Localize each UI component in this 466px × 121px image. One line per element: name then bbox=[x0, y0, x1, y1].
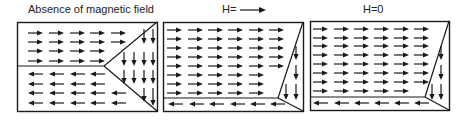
magnetization-right-arrow-icon bbox=[28, 48, 43, 53]
magnetization-left-arrow-icon bbox=[334, 100, 349, 105]
magnetization-right-arrow-icon bbox=[208, 45, 223, 50]
magnetization-right-arrow-icon bbox=[228, 45, 243, 50]
magnetization-right-arrow-icon bbox=[374, 79, 389, 84]
magnetization-right-arrow-icon bbox=[249, 36, 264, 41]
magnetization-right-arrow-icon bbox=[249, 90, 264, 95]
magnetization-right-arrow-icon bbox=[228, 63, 243, 68]
magnetization-right-arrow-icon bbox=[188, 81, 203, 86]
magnetization-right-arrow-icon bbox=[354, 70, 369, 75]
magnetization-right-arrow-icon bbox=[188, 36, 203, 41]
magnetization-right-arrow-icon bbox=[90, 39, 105, 44]
magnetization-right-arrow-icon bbox=[269, 45, 284, 50]
magnetic-domain-diagram bbox=[0, 0, 466, 121]
magnetization-left-arrow-icon bbox=[168, 101, 183, 106]
magnetization-right-arrow-icon bbox=[414, 61, 429, 66]
magnetization-right-arrow-icon bbox=[313, 70, 328, 75]
magnetization-right-arrow-icon bbox=[334, 52, 349, 57]
magnetization-right-arrow-icon bbox=[313, 61, 328, 66]
magnetization-right-arrow-icon bbox=[249, 45, 264, 50]
magnetization-right-arrow-icon bbox=[228, 90, 243, 95]
magnetization-right-arrow-icon bbox=[28, 39, 43, 44]
magnetization-right-arrow-icon bbox=[188, 72, 203, 77]
magnetization-right-arrow-icon bbox=[334, 26, 349, 31]
magnetization-left-arrow-icon bbox=[209, 101, 224, 106]
magnetization-right-arrow-icon bbox=[414, 70, 429, 75]
magnetization-right-arrow-icon bbox=[374, 61, 389, 66]
magnetization-left-arrow-icon bbox=[374, 100, 389, 105]
magnetization-down-arrow-icon bbox=[150, 29, 155, 44]
magnetization-right-arrow-icon bbox=[269, 36, 284, 41]
domain-wall bbox=[104, 66, 157, 111]
magnetization-down-arrow-icon bbox=[121, 52, 126, 66]
magnetization-right-arrow-icon bbox=[334, 70, 349, 75]
magnetization-right-arrow-icon bbox=[354, 43, 369, 48]
magnetization-down-arrow-icon bbox=[283, 84, 288, 100]
magnetization-left-arrow-icon bbox=[49, 100, 64, 105]
magnetization-right-arrow-icon bbox=[334, 88, 349, 93]
magnetization-left-arrow-icon bbox=[28, 81, 43, 86]
domain-wall bbox=[104, 22, 157, 66]
magnetization-right-arrow-icon bbox=[394, 79, 409, 84]
panel-border bbox=[18, 23, 158, 112]
magnetization-right-arrow-icon bbox=[269, 63, 284, 68]
magnetization-left-arrow-icon bbox=[414, 100, 429, 105]
magnetization-right-arrow-icon bbox=[334, 79, 349, 84]
magnetization-right-arrow-icon bbox=[70, 39, 85, 44]
magnetization-right-arrow-icon bbox=[414, 79, 429, 84]
magnetization-down-arrow-icon bbox=[429, 84, 434, 100]
magnetization-right-arrow-icon bbox=[188, 63, 203, 68]
magnetization-down-arrow-icon bbox=[150, 52, 155, 66]
magnetization-left-arrow-icon bbox=[250, 101, 265, 106]
magnetization-left-arrow-icon bbox=[394, 100, 409, 105]
magnetization-left-arrow-icon bbox=[90, 81, 105, 86]
magnetization-right-arrow-icon bbox=[354, 52, 369, 57]
magnetization-right-arrow-icon bbox=[167, 54, 182, 59]
magnetization-right-arrow-icon bbox=[188, 54, 203, 59]
magnetization-left-arrow-icon bbox=[111, 90, 126, 95]
magnetization-right-arrow-icon bbox=[188, 27, 203, 32]
magnetization-right-arrow-icon bbox=[313, 26, 328, 31]
magnetization-right-arrow-icon bbox=[394, 35, 409, 40]
magnetization-down-arrow-icon bbox=[131, 70, 136, 84]
magnetization-left-arrow-icon bbox=[270, 101, 285, 106]
magnetization-down-arrow-icon bbox=[131, 52, 136, 66]
magnetization-right-arrow-icon bbox=[249, 72, 264, 77]
domain-wall bbox=[278, 22, 303, 98]
magnetization-right-arrow-icon bbox=[374, 35, 389, 40]
magnetization-right-arrow-icon bbox=[167, 63, 182, 68]
magnetization-right-arrow-icon bbox=[167, 90, 182, 95]
magnetization-right-arrow-icon bbox=[334, 35, 349, 40]
magnetization-right-arrow-icon bbox=[28, 30, 43, 35]
magnetization-down-arrow-icon bbox=[141, 52, 146, 66]
magnetization-left-arrow-icon bbox=[49, 71, 64, 76]
magnetization-right-arrow-icon bbox=[374, 88, 389, 93]
magnetization-left-arrow-icon bbox=[28, 100, 43, 105]
magnetization-right-arrow-icon bbox=[208, 72, 223, 77]
magnetization-left-arrow-icon bbox=[70, 81, 85, 86]
magnetization-right-arrow-icon bbox=[208, 90, 223, 95]
magnetization-right-arrow-icon bbox=[394, 26, 409, 31]
magnetization-down-arrow-icon bbox=[438, 65, 443, 80]
magnetization-right-arrow-icon bbox=[249, 81, 264, 86]
magnetization-right-arrow-icon bbox=[269, 27, 284, 32]
magnetization-right-arrow-icon bbox=[249, 63, 264, 68]
magnetization-right-arrow-icon bbox=[228, 81, 243, 86]
magnetization-right-arrow-icon bbox=[167, 36, 182, 41]
magnetization-right-arrow-icon bbox=[354, 26, 369, 31]
magnetization-left-arrow-icon bbox=[49, 81, 64, 86]
magnetization-left-arrow-icon bbox=[28, 90, 43, 95]
domain-panel-1 bbox=[17, 22, 158, 112]
magnetization-right-arrow-icon bbox=[394, 52, 409, 57]
magnetization-right-arrow-icon bbox=[414, 52, 429, 57]
magnetization-right-arrow-icon bbox=[208, 36, 223, 41]
magnetization-down-arrow-icon bbox=[150, 70, 155, 84]
magnetization-right-arrow-icon bbox=[394, 61, 409, 66]
magnetization-right-arrow-icon bbox=[90, 30, 105, 35]
magnetization-right-arrow-icon bbox=[90, 48, 105, 53]
magnetization-right-arrow-icon bbox=[394, 43, 409, 48]
magnetization-right-arrow-icon bbox=[208, 54, 223, 59]
magnetization-left-arrow-icon bbox=[70, 100, 85, 105]
magnetization-right-arrow-icon bbox=[269, 54, 284, 59]
magnetization-right-arrow-icon bbox=[228, 54, 243, 59]
magnetization-right-arrow-icon bbox=[354, 79, 369, 84]
